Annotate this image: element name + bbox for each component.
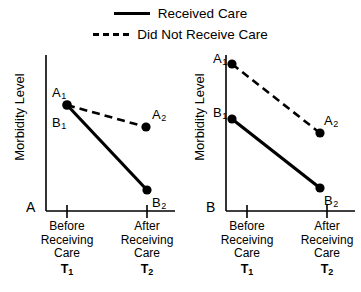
data-point-b2-panel-a <box>142 185 151 194</box>
tick-caption-line-1: After <box>314 219 339 233</box>
series-line-received-care-panel-a <box>67 105 147 190</box>
point-label-a1-panel-a: A1 <box>52 86 66 101</box>
legend-label-did-not-receive-care: Did Not Receive Care <box>137 27 268 42</box>
point-label-a2-panel-b: A2 <box>324 114 338 129</box>
point-label-b2-panel-a: B2 <box>152 196 166 211</box>
legend-swatch-dashed <box>93 33 129 36</box>
x-tick-caption-t2-panel-a: After Receiving Care T2 <box>104 220 190 277</box>
x-tick-caption-t2-panel-b: After Receiving Care T2 <box>284 220 361 277</box>
x-tick-caption-t1-panel-a: Before Receiving Care T1 <box>24 220 110 277</box>
tick-caption-line-3: Care <box>234 246 260 260</box>
series-line-received-care-panel-b <box>232 119 320 188</box>
legend-entry-received-care: Received Care <box>114 4 247 22</box>
tick-caption-line-2: Receiving <box>221 233 274 247</box>
legend-swatch-solid <box>114 12 150 15</box>
tick-caption-line-2: Receiving <box>41 233 94 247</box>
x-tick-caption-t1-panel-b: Before Receiving Care T1 <box>204 220 290 277</box>
panel-b: Morbidity Level B A1 B1 A2 B2 Before Rec… <box>180 50 361 292</box>
data-point-a2-panel-b <box>315 128 324 137</box>
data-point-a1-panel-b <box>227 59 236 68</box>
tick-caption-timepoint: T2 <box>284 263 361 278</box>
point-label-b1-panel-b: B1 <box>213 106 227 121</box>
figure-root: Received Care Did Not Receive Care Morbi… <box>0 0 361 292</box>
data-point-a1-b1-panel-a <box>62 100 72 110</box>
legend-label-received-care: Received Care <box>158 6 247 21</box>
tick-caption-line-2: Receiving <box>301 233 354 247</box>
point-label-a2-panel-a: A2 <box>152 108 166 123</box>
legend: Received Care Did Not Receive Care <box>0 4 361 43</box>
tick-caption-line-3: Care <box>134 246 160 260</box>
point-label-a1-panel-b: A1 <box>213 52 227 67</box>
data-point-b2-panel-b <box>315 183 324 192</box>
point-label-b2-panel-b: B2 <box>324 194 338 209</box>
tick-caption-timepoint: T1 <box>204 263 290 278</box>
tick-caption-line-3: Care <box>314 246 340 260</box>
panel-a: Morbidity Level A A1 B1 A2 B2 Before Rec… <box>0 50 181 292</box>
tick-caption-timepoint: T2 <box>104 263 190 278</box>
tick-caption-line-1: Before <box>229 219 264 233</box>
tick-caption-line-1: After <box>134 219 159 233</box>
tick-caption-timepoint: T1 <box>24 263 110 278</box>
data-point-b1-panel-b <box>227 114 236 123</box>
tick-caption-line-2: Receiving <box>121 233 174 247</box>
data-point-a2-panel-a <box>141 122 150 131</box>
point-label-b1-panel-a: B1 <box>52 116 66 131</box>
tick-caption-line-3: Care <box>54 246 80 260</box>
series-line-did-not-receive-care-panel-b <box>232 64 320 133</box>
tick-caption-line-1: Before <box>49 219 84 233</box>
legend-entry-did-not-receive-care: Did Not Receive Care <box>93 25 268 43</box>
